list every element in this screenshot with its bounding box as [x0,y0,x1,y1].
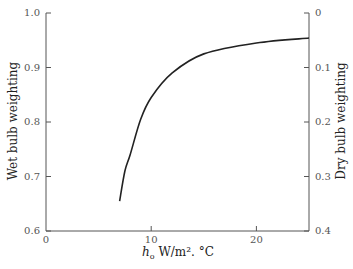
chart: 0.60.70.80.91.00.40.30.20.1001020 Wet bu… [0,0,353,269]
axis-lines [46,13,309,231]
y-tick-label: 0.6 [24,225,40,236]
x-tick-label: 20 [250,234,263,245]
y2-tick-label: 0.2 [315,116,331,127]
y2-axis-title: Dry bulb weighting [334,62,348,180]
y-tick-label: 0.7 [24,171,40,182]
x-axis-title: ho W/m². °C [142,245,214,261]
y2-tick-label: 0.3 [315,171,331,182]
y-axis-title: Wet bulb weighting [6,61,20,180]
y2-tick-label: 0 [315,7,321,18]
x-tick-label: 10 [145,234,158,245]
y2-tick-label: 0.4 [315,225,331,236]
data-line [120,38,309,201]
y2-tick-label: 0.1 [315,62,331,73]
y-tick-label: 0.8 [24,116,40,127]
y-tick-label: 1.0 [24,7,40,18]
y-tick-label: 0.9 [24,62,40,73]
axes: 0.60.70.80.91.00.40.30.20.1001020 [24,7,331,245]
x-tick-label: 0 [43,234,49,245]
